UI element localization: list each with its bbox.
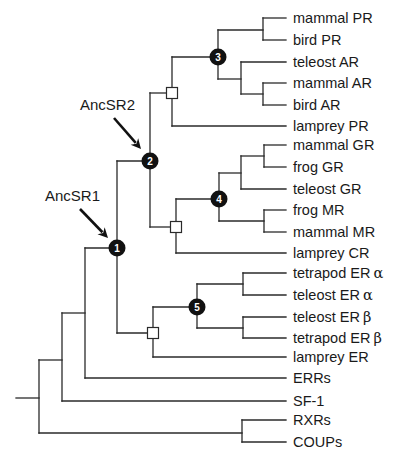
ancestor-label: AncSR2 — [80, 96, 135, 113]
annotation-ancsr2: AncSR2 — [80, 96, 141, 149]
phylogenetic-tree: 12345 mammal PRbird PRteleost ARmammal A… — [0, 0, 403, 460]
node-5: 5 — [189, 299, 206, 316]
square-node-icon — [171, 222, 182, 233]
arrow-icon — [114, 118, 136, 143]
node-number: 2 — [147, 156, 153, 167]
square-node-icon — [148, 328, 159, 339]
leaf-label: mammal MR — [293, 224, 375, 240]
leaf-label: mammal PR — [293, 10, 373, 26]
square-node-icon — [167, 88, 178, 99]
leaf-label: teleost ERβ — [293, 309, 371, 325]
leaf-label: COUPs — [293, 434, 342, 450]
annotation-ancsr1: AncSR1 — [45, 187, 108, 238]
leaf-label: tetrapod ERα — [293, 265, 383, 281]
greek-suffix: β — [363, 309, 371, 325]
leaf-label: lamprey CR — [293, 245, 370, 261]
leaf-label: teleost GR — [293, 181, 362, 197]
node-number: 3 — [215, 52, 221, 63]
node-4: 4 — [211, 191, 228, 208]
greek-suffix: α — [363, 287, 373, 303]
leaf-label: teleost AR — [293, 54, 359, 70]
leaf-label: SF-1 — [293, 393, 324, 409]
ancestor-label: AncSR1 — [45, 187, 100, 204]
leaf-label: frog GR — [293, 159, 344, 175]
node-number: 5 — [194, 302, 200, 313]
node-2: 2 — [142, 153, 159, 170]
leaf-label: lamprey PR — [293, 118, 369, 134]
leaf-labels: mammal PRbird PRteleost ARmammal ARbird … — [293, 10, 383, 450]
arrow-icon — [80, 209, 102, 232]
leaf-label: lamprey ER — [293, 349, 369, 365]
leaf-label: ERRs — [293, 370, 331, 386]
node-number: 4 — [216, 194, 222, 205]
ancestor-annotations: AncSR1AncSR2 — [45, 96, 141, 238]
leaf-label: frog MR — [293, 202, 345, 218]
leaf-label: tetrapod ERβ — [293, 330, 382, 346]
node-number: 1 — [114, 243, 120, 254]
leaf-label: teleost ERα — [293, 287, 373, 303]
leaf-label: mammal AR — [293, 75, 372, 91]
node-3: 3 — [210, 49, 227, 66]
leaf-label: bird PR — [293, 32, 341, 48]
leaf-label: mammal GR — [293, 137, 374, 153]
node-1: 1 — [109, 240, 126, 257]
leaf-label: RXRs — [293, 412, 331, 428]
leaf-label: bird AR — [293, 97, 341, 113]
greek-suffix: β — [373, 330, 381, 346]
greek-suffix: α — [373, 265, 383, 281]
